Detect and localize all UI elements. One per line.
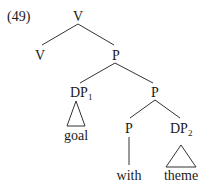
edge-root-p1 (78, 24, 114, 45)
syntax-tree: (49) V V P DP1 goal P P with DP2 theme (0, 0, 206, 191)
node-dp2: DP2 (170, 121, 192, 138)
edge-p1-p2 (115, 63, 153, 83)
node-p3: P (125, 121, 133, 136)
edge-p2-dp2 (155, 100, 180, 118)
node-p2: P (151, 85, 159, 100)
node-v-left: V (35, 48, 45, 63)
edge-root-vleft (42, 24, 78, 45)
leaf-with: with (117, 168, 142, 183)
node-dp1: DP1 (70, 85, 92, 102)
example-number: (49) (7, 9, 31, 25)
node-root-v: V (73, 9, 83, 24)
triangle-dp2 (166, 145, 196, 167)
edge-p1-dp1 (80, 63, 115, 83)
edge-p2-p3 (130, 100, 155, 118)
leaf-theme: theme (164, 168, 198, 183)
leaf-goal: goal (64, 128, 88, 143)
node-p1: P (112, 48, 120, 63)
triangle-dp1 (67, 101, 85, 126)
